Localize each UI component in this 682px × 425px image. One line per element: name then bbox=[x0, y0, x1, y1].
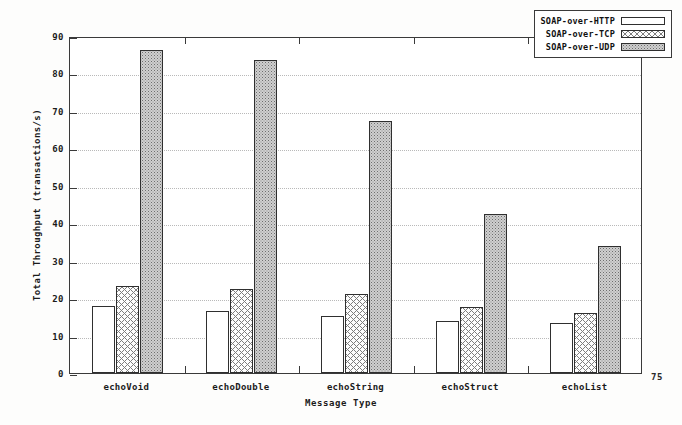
x-tick bbox=[299, 366, 300, 373]
x-tick-label: echoList bbox=[562, 382, 608, 392]
bar-tcp-echoList bbox=[574, 313, 597, 373]
y-tick bbox=[70, 263, 77, 264]
y-tick bbox=[70, 300, 77, 301]
x-tick-label: echoStruct bbox=[442, 382, 499, 392]
bar-http-echoDouble bbox=[206, 311, 229, 373]
legend-swatch-http bbox=[621, 17, 665, 25]
bar-http-echoString bbox=[321, 316, 344, 373]
x-tick bbox=[414, 366, 415, 373]
legend-label-http: SOAP-over-HTTP bbox=[541, 16, 615, 26]
x-tick-top bbox=[299, 38, 300, 44]
x-tick-top bbox=[414, 38, 415, 44]
x-tick bbox=[185, 366, 186, 373]
x-axis-title: Message Type bbox=[0, 398, 682, 408]
y-tick bbox=[70, 113, 77, 114]
bar-tcp-echoString bbox=[345, 294, 368, 373]
legend-item: SOAP-over-TCP bbox=[541, 27, 665, 40]
y-tick-label: 40 bbox=[36, 219, 64, 229]
x-tick-label: echoString bbox=[327, 382, 384, 392]
bar-tcp-echoVoid bbox=[116, 286, 139, 373]
bar-tcp-echoStruct bbox=[460, 307, 483, 373]
bar-tcp-echoDouble bbox=[230, 289, 253, 373]
y-tick-label: 70 bbox=[36, 107, 64, 117]
y-tick-label: 10 bbox=[36, 332, 64, 342]
legend-item: SOAP-over-UDP bbox=[541, 40, 665, 53]
legend-swatch-udp bbox=[621, 43, 665, 51]
legend-swatch-tcp bbox=[621, 30, 665, 38]
bar-http-echoList bbox=[550, 323, 573, 373]
bar-udp-echoList bbox=[598, 246, 621, 373]
legend-item: SOAP-over-HTTP bbox=[541, 14, 665, 27]
legend-label-udp: SOAP-over-UDP bbox=[546, 42, 615, 52]
y-tick-label: 30 bbox=[36, 257, 64, 267]
bar-chart: Total Throughput (transactions/s) 010203… bbox=[0, 0, 682, 425]
y-tick bbox=[70, 38, 77, 39]
y-tick bbox=[70, 338, 77, 339]
x-tick-top bbox=[528, 38, 529, 44]
x-tick-label: echoVoid bbox=[103, 382, 149, 392]
y-tick-label: 20 bbox=[36, 294, 64, 304]
y-tick bbox=[70, 75, 77, 76]
y-tick-label: 80 bbox=[36, 69, 64, 79]
y-tick-label: 0 bbox=[36, 369, 64, 379]
y-tick bbox=[70, 150, 77, 151]
legend: SOAP-over-HTTP SOAP-over-TCP SOAP-over-U… bbox=[534, 10, 672, 58]
bar-udp-echoString bbox=[369, 121, 392, 373]
plot-area bbox=[69, 37, 642, 374]
y-tick bbox=[70, 188, 77, 189]
x-tick-label: echoDouble bbox=[212, 382, 269, 392]
y-tick-label: 90 bbox=[36, 32, 64, 42]
bar-udp-echoStruct bbox=[484, 214, 507, 373]
y-tick-label: 50 bbox=[36, 182, 64, 192]
page-number: 75 bbox=[651, 372, 663, 382]
bar-http-echoVoid bbox=[92, 306, 115, 373]
legend-label-tcp: SOAP-over-TCP bbox=[546, 29, 615, 39]
bar-udp-echoDouble bbox=[254, 60, 277, 373]
bar-http-echoStruct bbox=[436, 321, 459, 373]
y-tick-label: 60 bbox=[36, 144, 64, 154]
bar-udp-echoVoid bbox=[140, 50, 163, 373]
x-tick bbox=[528, 366, 529, 373]
x-tick-top bbox=[185, 38, 186, 44]
y-tick bbox=[70, 225, 77, 226]
y-tick bbox=[70, 375, 77, 376]
